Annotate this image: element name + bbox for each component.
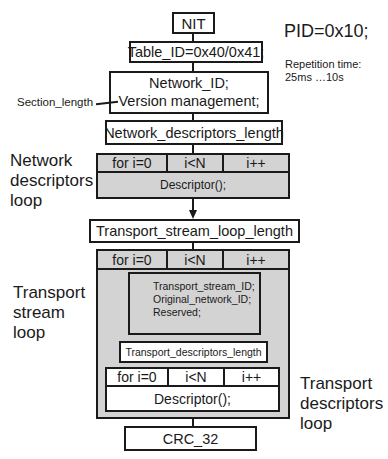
loop-condition: i<N [166,155,222,171]
reserved-field: Reserved; [153,306,259,319]
loop-header: for i=0 i<N i++ [98,155,288,173]
label-line: Transport [13,283,85,303]
loop-condition: i<N [166,251,222,268]
loop-increment: i++ [222,251,288,268]
label-line: loop [13,323,85,343]
network-descriptors-loop-label: Network descriptors loop [10,151,93,211]
transport-descriptors-loop-label: Transport descriptors loop [300,374,383,434]
version-management-field: Version management; [118,93,259,110]
table-id-box: Table_ID=0x40/0x41; [129,41,263,63]
label-line: loop [300,414,383,434]
loop-condition: i<N [167,369,223,385]
label-line: Network [10,151,93,171]
label-line: descriptors [10,171,93,191]
label-line: loop [10,191,93,211]
loop-init: for i=0 [98,251,166,268]
section-length-label: Section_length [17,96,93,109]
network-descriptors-loop: for i=0 i<N i++ Descriptor(); [96,153,290,199]
loop-header: for i=0 i<N i++ [98,251,288,270]
network-descriptors-length-label: Network_descriptors_length [104,125,284,141]
loop-init: for i=0 [98,155,166,171]
label-line: stream [13,303,85,323]
table-id-label: Table_ID=0x40/0x41; [128,44,265,60]
connector [192,144,194,153]
crc-32-box: CRC_32 [124,426,257,451]
transport-descriptors-length-box: Transport_descriptors_length [119,341,268,363]
arrow-down-icon [189,210,197,219]
network-id-box: Network_ID; Version management; [109,71,269,114]
descriptor-call: Descriptor(); [154,391,231,407]
loop-body: Descriptor(); [107,387,278,410]
pid-label: PID=0x10; [284,21,369,42]
transport-stream-id-field: Transport_stream_ID; [153,280,259,293]
nit-label: NIT [181,15,205,32]
loop-init: for i=0 [107,369,167,385]
crc-32-label: CRC_32 [163,431,219,447]
transport-stream-loop-label: Transport stream loop [13,283,85,343]
repetition-time-label: Repetition time: 25ms …10s [285,58,361,83]
label-line: Transport [300,374,383,394]
transport-stream-fields-box: Transport_stream_ID; Original_network_ID… [128,272,261,335]
network-descriptors-length-box: Network_descriptors_length [105,120,283,145]
label-line: descriptors [300,394,383,414]
transport-stream-loop-length-label: Transport_stream_loop_length [96,223,293,239]
transport-stream-loop-length-box: Transport_stream_loop_length [89,219,300,243]
transport-descriptors-length-label: Transport_descriptors_length [125,346,261,358]
original-network-id-field: Original_network_ID; [153,293,259,306]
nit-box: NIT [172,12,215,34]
loop-body: Descriptor(); [98,173,288,197]
network-id-field: Network_ID; [149,75,229,92]
repetition-line-1: Repetition time: [285,58,361,71]
repetition-line-2: 25ms …10s [285,71,361,84]
loop-header: for i=0 i<N i++ [107,369,278,387]
loop-increment: i++ [223,369,278,385]
loop-increment: i++ [222,155,288,171]
descriptor-call: Descriptor(); [160,178,226,192]
transport-descriptors-loop: for i=0 i<N i++ Descriptor(); [105,367,280,412]
